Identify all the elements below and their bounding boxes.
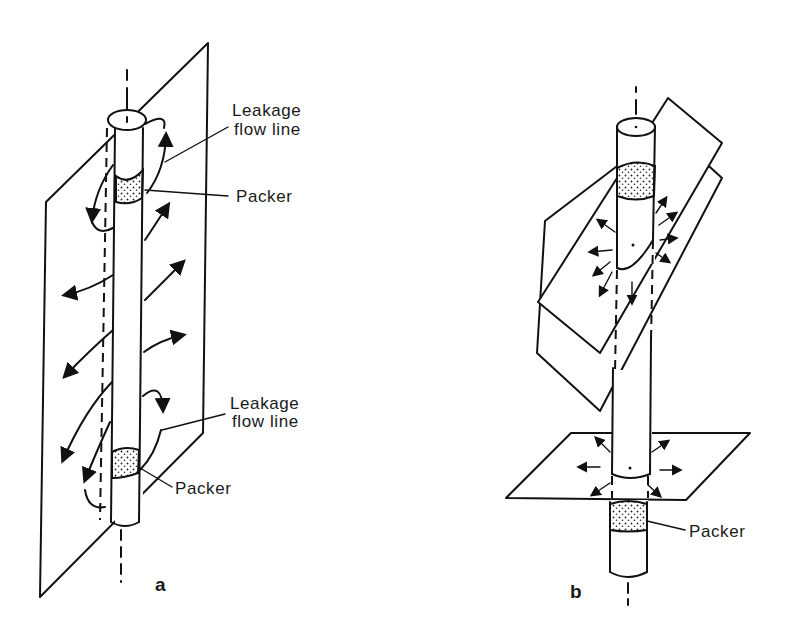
label-packer-top: Packer [236,187,293,206]
borehole-wall-mid-left [612,368,613,474]
leakage-loop-top [145,119,165,128]
label-flow-line-top: flow line [234,120,301,139]
label-packer-b: Packer [689,522,746,541]
callout-leakage-bottom [162,414,225,430]
packer-upper-b [617,162,655,199]
label-flow-line-bottom: flow line [232,412,299,431]
panel-label-a: a [155,574,166,595]
packer-bottom [112,448,139,478]
callout-leakage-top [165,127,228,162]
leakage-loop-bottom [143,390,163,410]
packer-lower-b [610,501,647,532]
label-leakage-bottom: Leakage [230,394,299,413]
leakage-arrow-top-right [147,135,166,193]
panel-a: Leakage flow line Packer Leakage flow li… [40,43,301,597]
panel-b: Packer b [506,87,750,605]
callout-packer-top [145,190,228,196]
flow-arrow [145,205,168,240]
callout-packer-bottom [140,468,172,487]
borehole-wall-mid-right [650,338,651,474]
panel-label-b: b [570,581,582,602]
callout-packer-b [647,521,685,530]
label-packer-bottom: Packer [175,479,232,498]
borehole-packer-diagram: Leakage flow line Packer Leakage flow li… [0,0,790,630]
label-leakage-top: Leakage [232,101,301,120]
